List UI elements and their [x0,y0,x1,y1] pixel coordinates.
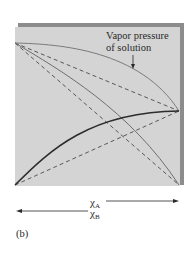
vapor-pressure-diagram: Vapor pressure of solution χA χB (b) [0,0,195,253]
annotation-line-2: of solution [106,42,169,54]
chi-b-subscript: B [95,213,100,221]
annotation-line-1: Vapor pressure [106,30,169,42]
panel-label: (b) [16,228,28,239]
frame-shadow-right [180,23,184,185]
frame-shadow-top [18,23,184,27]
xb-arrow-head [16,209,22,213]
mole-fraction-b-label: χB [90,207,100,221]
xa-arrow-head [173,199,179,203]
vapor-pressure-annotation: Vapor pressure of solution [106,30,169,53]
